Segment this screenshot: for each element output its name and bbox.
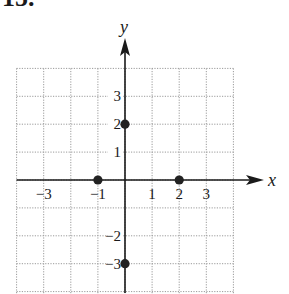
x-axis-label: x xyxy=(267,170,276,190)
axes: xy xyxy=(17,17,276,293)
data-point xyxy=(93,175,102,184)
x-tick-label: −1 xyxy=(90,186,106,202)
y-tick-label: 2 xyxy=(114,116,122,132)
x-tick-label: 3 xyxy=(203,186,211,202)
x-tick-label: −3 xyxy=(36,186,52,202)
data-points xyxy=(93,120,183,269)
y-tick-label: 1 xyxy=(114,144,122,160)
data-point xyxy=(120,120,129,129)
data-point xyxy=(120,259,129,268)
x-tick-label: 1 xyxy=(148,186,156,202)
y-tick-label: −2 xyxy=(105,228,121,244)
x-tick-label: 2 xyxy=(175,186,183,202)
y-axis-label: y xyxy=(118,17,128,37)
y-tick-label: −3 xyxy=(105,256,121,272)
y-tick-label: 3 xyxy=(114,88,122,104)
data-point xyxy=(175,175,184,184)
coordinate-plane: xy −3−1123321−2−3 xyxy=(0,0,289,294)
